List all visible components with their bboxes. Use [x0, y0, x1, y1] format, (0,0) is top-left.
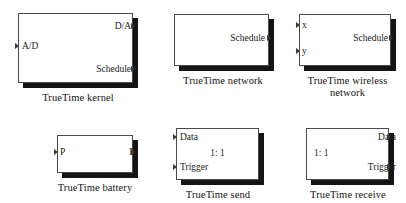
input-port-arrow-data[interactable] — [173, 134, 177, 140]
block-caption: TrueTime battery — [31, 182, 159, 194]
block-truetime-battery[interactable]: P E TrueTime battery — [57, 135, 141, 197]
port-label-schedule: Schedule — [353, 33, 388, 43]
block-caption: TrueTime kernel — [18, 92, 138, 104]
input-port-arrow-p[interactable] — [54, 149, 58, 155]
block-truetime-wireless-network[interactable]: x y Schedule TrueTime wireless network — [299, 14, 396, 106]
block-center-label: 1: 1 — [314, 148, 329, 158]
output-port-arrow-e[interactable] — [131, 149, 135, 155]
port-label-d-a: D/A — [115, 21, 131, 31]
block-truetime-send[interactable]: Data 1: 1 Trigger TrueTime send — [176, 128, 272, 198]
port-label-trigger: Trigger — [368, 162, 396, 172]
port-label-schedule: Schedule — [230, 33, 265, 43]
block-center-label: 1: 1 — [176, 148, 259, 158]
block-truetime-network[interactable]: Schedule TrueTime network — [174, 14, 274, 94]
port-label-trigger: Trigger — [180, 162, 208, 172]
output-port-arrow-data[interactable] — [387, 134, 391, 140]
port-label-y: y — [302, 46, 307, 56]
port-label-data: Data — [180, 132, 198, 142]
output-port-arrow-schedule[interactable] — [267, 35, 271, 41]
block-body[interactable] — [57, 135, 133, 173]
block-library-canvas: A/D D/A Schedule TrueTime kernel Schedul… — [0, 0, 406, 203]
input-port-arrow-x[interactable] — [296, 22, 300, 28]
port-label-a-d: A/D — [22, 41, 38, 51]
block-caption: TrueTime network — [172, 75, 274, 87]
input-port-arrow-a-d[interactable] — [15, 43, 19, 49]
output-port-arrow-schedule[interactable] — [389, 35, 393, 41]
output-port-arrow-trigger[interactable] — [387, 164, 391, 170]
block-truetime-receive[interactable]: Data 1: 1 Trigger TrueTime receive — [306, 128, 402, 198]
block-caption: TrueTime send — [159, 189, 277, 201]
block-caption: TrueTime wireless network — [295, 75, 400, 99]
port-label-x: x — [302, 20, 307, 30]
port-label-schedule: Schedule — [96, 64, 131, 74]
port-label-p: P — [60, 147, 65, 157]
input-port-arrow-trigger[interactable] — [173, 164, 177, 170]
output-port-arrow-d-a[interactable] — [131, 23, 135, 29]
block-truetime-kernel[interactable]: A/D D/A Schedule TrueTime kernel — [18, 13, 138, 103]
block-caption: TrueTime receive — [283, 189, 406, 201]
input-port-arrow-y[interactable] — [296, 48, 300, 54]
output-port-arrow-schedule[interactable] — [131, 66, 135, 72]
